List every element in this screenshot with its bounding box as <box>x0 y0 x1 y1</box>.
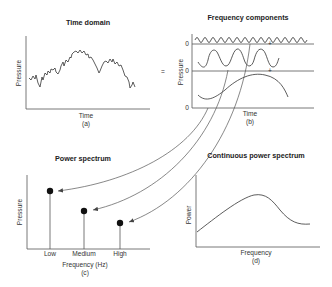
arrow-low <box>58 108 208 191</box>
zero-label-2: 0 <box>185 67 189 74</box>
tick-high: High <box>113 250 127 258</box>
panel-a-caption: (a) <box>82 120 90 128</box>
panel-continuous-power-spectrum: Continuous power spectrum Power Frequenc… <box>185 151 320 265</box>
panel-a-xlabel: Time <box>79 112 94 119</box>
panel-power-spectrum: Power spectrum Pressure Low Medium High … <box>16 154 150 277</box>
arrow-medium <box>93 70 228 210</box>
zero-label-3: 0 <box>185 104 189 111</box>
tick-low: Low <box>44 250 56 257</box>
point-low <box>47 188 53 194</box>
panel-d-ylabel: Power <box>185 205 192 224</box>
panel-time-domain: Time domain Pressure Time (a) <box>15 18 150 128</box>
panel-d-xlabel: Frequency <box>240 249 272 257</box>
panel-b-ylabel: Pressure <box>177 58 184 85</box>
medium-frequency-wave <box>198 49 279 67</box>
fourier-figure: Time domain Pressure Time (a) = Frequenc… <box>0 0 332 287</box>
panel-d-caption: (d) <box>252 257 260 265</box>
panel-c-caption: (c) <box>81 269 89 277</box>
plus-sign-2: + <box>268 67 272 74</box>
zero-label-1: 0 <box>185 40 189 47</box>
panel-c-xlabel: Frequency (Hz) <box>62 261 107 269</box>
point-medium <box>81 208 87 214</box>
tick-medium: Medium <box>72 250 96 257</box>
equals-sign: = <box>161 68 165 75</box>
continuous-spectrum-curve <box>197 195 310 232</box>
panel-d-title: Continuous power spectrum <box>207 151 304 160</box>
panel-b-xlabel: Time <box>243 110 258 117</box>
high-frequency-wave <box>195 38 307 43</box>
low-frequency-wave <box>198 74 288 99</box>
time-domain-waveform <box>29 50 135 88</box>
panel-c-title: Power spectrum <box>55 154 111 163</box>
panel-c-ylabel: Pressure <box>16 198 23 225</box>
point-high <box>117 220 123 226</box>
panel-a-title: Time domain <box>66 18 110 27</box>
panel-b-caption: (b) <box>246 118 254 126</box>
panel-b-title: Frequency components <box>207 13 288 22</box>
panel-a-ylabel: Pressure <box>15 59 22 86</box>
